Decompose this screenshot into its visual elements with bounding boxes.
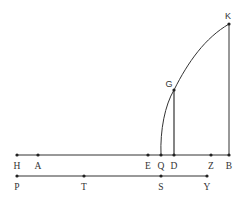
- point-Z: [209, 153, 212, 156]
- label-Z: Z: [208, 161, 214, 171]
- label-G: G: [165, 79, 172, 89]
- label-D: D: [171, 161, 178, 171]
- label-E: E: [145, 161, 151, 171]
- point-K: [227, 22, 230, 25]
- point-Y: [205, 174, 208, 177]
- point-T: [82, 174, 85, 177]
- point-H: [15, 153, 18, 156]
- label-P: P: [14, 182, 19, 192]
- label-T: T: [81, 182, 87, 192]
- arc-QGK: [161, 24, 229, 155]
- label-B: B: [226, 161, 232, 171]
- point-A: [36, 153, 39, 156]
- label-H: H: [14, 161, 21, 171]
- point-G: [172, 88, 175, 91]
- label-K: K: [225, 11, 231, 21]
- label-A: A: [35, 161, 42, 171]
- label-Y: Y: [204, 182, 211, 192]
- point-B: [227, 153, 230, 156]
- point-E: [146, 153, 149, 156]
- label-Q: Q: [158, 161, 165, 171]
- geometry-diagram: H A E Q D Z B P T S Y K G: [0, 0, 245, 202]
- point-Q: [159, 153, 162, 156]
- point-S: [159, 174, 162, 177]
- point-D: [172, 153, 175, 156]
- point-P: [15, 174, 18, 177]
- label-S: S: [158, 182, 163, 192]
